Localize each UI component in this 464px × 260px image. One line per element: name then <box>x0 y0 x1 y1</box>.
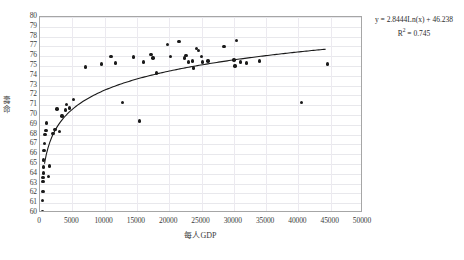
trendline <box>40 17 361 211</box>
y-axis-tick-label: 65 <box>3 159 37 167</box>
data-point <box>166 43 169 46</box>
data-point <box>41 190 44 193</box>
y-axis-tick-label: 78 <box>3 32 37 40</box>
data-point <box>42 171 45 174</box>
y-axis-tick-label: 66 <box>3 149 37 157</box>
data-point <box>142 60 145 63</box>
scatter-chart: 6061626364656667686970717273747576777879… <box>0 0 464 260</box>
y-axis-tick-label: 63 <box>3 179 37 187</box>
y-axis-title: 壽命 <box>1 96 12 114</box>
data-point <box>169 55 172 58</box>
data-point <box>100 62 103 65</box>
regression-equation: y = 2.8444Ln(x) + 46.238 <box>366 14 462 25</box>
data-point <box>64 108 67 111</box>
data-point <box>239 60 242 63</box>
x-axis-tick-label: 50000 <box>339 216 385 225</box>
data-point <box>326 62 329 65</box>
data-point <box>187 60 190 63</box>
data-point <box>232 58 235 61</box>
data-point <box>200 55 203 58</box>
y-axis-tick-label: 79 <box>3 22 37 30</box>
y-axis-tick-label: 77 <box>3 41 37 49</box>
y-axis-tick-label: 76 <box>3 51 37 59</box>
data-point <box>51 132 54 135</box>
y-axis-tick-label: 67 <box>3 139 37 147</box>
data-point <box>191 59 194 62</box>
data-point <box>84 65 87 68</box>
data-point <box>177 40 180 43</box>
y-axis-tick-label: 75 <box>3 61 37 69</box>
data-point <box>41 180 44 183</box>
y-axis-tick-label: 69 <box>3 120 37 128</box>
data-point <box>149 53 152 56</box>
data-point <box>233 64 236 67</box>
data-point <box>55 107 58 110</box>
data-point <box>41 210 44 212</box>
r-squared-number: = 0.745 <box>405 29 430 38</box>
data-point <box>44 129 47 132</box>
plot-area <box>39 16 362 212</box>
data-point <box>60 114 63 117</box>
x-axis-title: 每人GDP <box>39 231 362 241</box>
y-axis-tick-label: 62 <box>3 188 37 196</box>
y-axis-tick-label: 74 <box>3 71 37 79</box>
data-point <box>114 61 117 64</box>
r-squared-value: R2 = 0.745 <box>366 25 462 39</box>
data-point <box>184 54 187 57</box>
y-axis-tick-label: 61 <box>3 198 37 206</box>
y-axis-tick-label: 73 <box>3 81 37 89</box>
y-axis-tick-label: 60 <box>3 208 37 216</box>
data-point <box>53 128 56 131</box>
data-point <box>155 71 158 74</box>
data-point <box>65 103 68 106</box>
data-point <box>138 119 141 122</box>
y-axis-tick-label: 68 <box>3 130 37 138</box>
y-axis-tick-label: 64 <box>3 169 37 177</box>
y-axis-tick-label: 80 <box>3 12 37 20</box>
data-point <box>42 165 45 168</box>
data-point <box>206 59 209 62</box>
regression-annotation: y = 2.8444Ln(x) + 46.238 R2 = 0.745 <box>366 14 462 39</box>
data-point <box>222 45 225 48</box>
data-point <box>197 49 200 52</box>
data-point <box>151 56 154 59</box>
x-axis-tick-labels: 0500010000150002000025000300003500040000… <box>39 216 362 230</box>
data-point <box>42 149 45 152</box>
data-point <box>109 55 112 58</box>
data-point <box>45 121 48 124</box>
